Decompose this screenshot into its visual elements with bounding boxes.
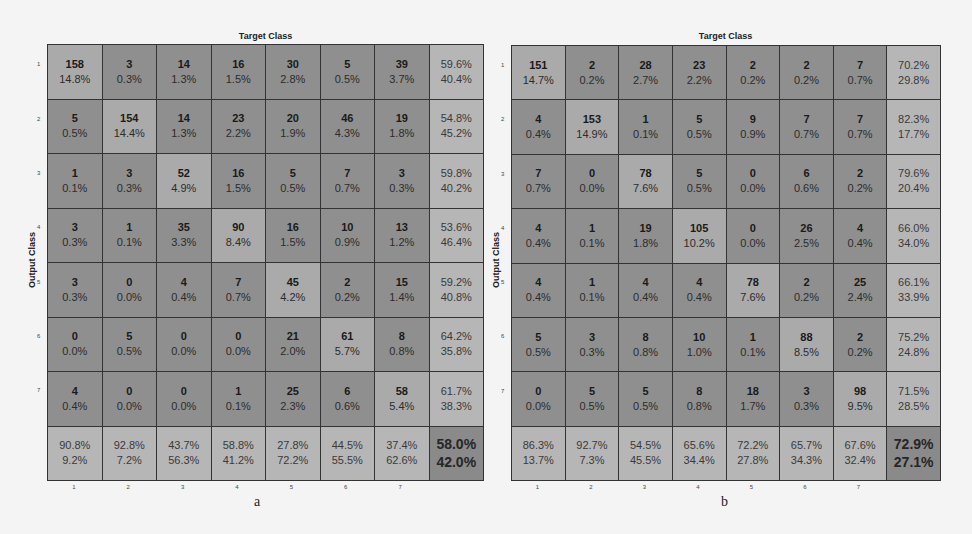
matrix-cell: 262.5% xyxy=(780,209,833,262)
cell-percent: 24.8% xyxy=(898,345,929,360)
matrix-cell: 10.1% xyxy=(566,264,619,317)
cell-count: 5 xyxy=(589,384,595,399)
y-tick-label: 4 xyxy=(501,225,504,231)
cell-percent: 7.6% xyxy=(740,290,765,305)
cell-percent: 45.5% xyxy=(630,453,661,468)
y-tick-label: 6 xyxy=(501,333,504,339)
matrix-cell: 40.4% xyxy=(673,264,726,317)
cell-percent: 65.7% xyxy=(791,438,822,453)
y-tick-label: 2 xyxy=(501,116,504,122)
cell-percent: 0.1% xyxy=(740,345,765,360)
cell-percent: 0.4% xyxy=(633,290,658,305)
cell-count: 2 xyxy=(857,330,863,345)
cell-percent: 0.2% xyxy=(740,73,765,88)
cell-percent: 66.0% xyxy=(898,221,929,236)
row-summary-cell: 82.3%17.7% xyxy=(887,100,940,153)
cell-percent: 33.9% xyxy=(898,290,929,305)
cell-count: 6 xyxy=(803,166,809,181)
cell-percent: 0.5% xyxy=(526,345,551,360)
cell-percent: 17.7% xyxy=(898,127,929,142)
matrix-cell: 232.2% xyxy=(673,46,726,99)
cell-count: 8 xyxy=(696,384,702,399)
matrix-cell: 60.6% xyxy=(780,155,833,208)
cell-percent: 2.2% xyxy=(687,73,712,88)
matrix-cell: 10.1% xyxy=(566,209,619,262)
cell-count: 19 xyxy=(639,221,651,236)
cell-percent: 14.7% xyxy=(523,73,554,88)
matrix-cell: 30.3% xyxy=(566,318,619,371)
x-tick-label: 5 xyxy=(750,484,753,490)
matrix-cell: 20.2% xyxy=(780,46,833,99)
cell-percent: 1.7% xyxy=(740,399,765,414)
cell-percent: 0.1% xyxy=(579,290,604,305)
x-tick-label: 1 xyxy=(536,484,539,490)
matrix-cell: 40.4% xyxy=(512,100,565,153)
cell-count: 2 xyxy=(857,166,863,181)
cell-percent: 27.1% xyxy=(894,453,934,471)
matrix-cell: 50.5% xyxy=(673,155,726,208)
cell-count: 5 xyxy=(696,166,702,181)
cell-count: 153 xyxy=(583,112,601,127)
cell-count: 10 xyxy=(693,330,705,345)
cell-percent: 20.4% xyxy=(898,181,929,196)
cell-count: 25 xyxy=(854,275,866,290)
cell-percent: 0.6% xyxy=(794,181,819,196)
cell-percent: 28.5% xyxy=(898,399,929,414)
cell-percent: 82.3% xyxy=(898,112,929,127)
cell-percent: 65.6% xyxy=(684,438,715,453)
x-tick-label: 7 xyxy=(857,484,860,490)
matrix-cell: 989.5% xyxy=(834,372,887,425)
row-summary-cell: 75.2%24.8% xyxy=(887,318,940,371)
confusion-matrix-b: Target Class Output Class 15114.7%20.2%2… xyxy=(0,0,972,534)
cell-count: 1 xyxy=(589,275,595,290)
y-tick-label: 1 xyxy=(501,62,504,68)
x-tick-label: 6 xyxy=(803,484,806,490)
cell-percent: 71.5% xyxy=(898,384,929,399)
matrix-cell: 90.9% xyxy=(727,100,780,153)
matrix-cell: 252.4% xyxy=(834,264,887,317)
cell-count: 2 xyxy=(803,58,809,73)
cell-count: 4 xyxy=(857,221,863,236)
cell-count: 151 xyxy=(529,58,547,73)
cell-count: 98 xyxy=(854,384,866,399)
cell-percent: 2.4% xyxy=(848,290,873,305)
cell-count: 7 xyxy=(535,166,541,181)
cell-percent: 0.9% xyxy=(740,127,765,142)
cell-percent: 0.8% xyxy=(687,399,712,414)
y-axis-title: Output Class xyxy=(491,230,501,290)
cell-percent: 13.7% xyxy=(523,453,554,468)
matrix-cell: 50.5% xyxy=(566,372,619,425)
cell-percent: 0.5% xyxy=(687,181,712,196)
cell-count: 4 xyxy=(535,275,541,290)
matrix-cell: 80.8% xyxy=(673,372,726,425)
column-summary-cell: 54.5%45.5% xyxy=(619,427,672,480)
column-summary-cell: 65.6%34.4% xyxy=(673,427,726,480)
matrix-cell: 80.8% xyxy=(619,318,672,371)
cell-count: 26 xyxy=(800,221,812,236)
cell-percent: 0.7% xyxy=(848,127,873,142)
cell-percent: 72.9% xyxy=(894,435,934,453)
row-summary-cell: 71.5%28.5% xyxy=(887,372,940,425)
cell-percent: 7.3% xyxy=(579,453,604,468)
cell-percent: 92.7% xyxy=(576,438,607,453)
cell-percent: 0.1% xyxy=(579,236,604,251)
cell-percent: 0.0% xyxy=(740,236,765,251)
x-tick-label: 2 xyxy=(589,484,592,490)
cell-percent: 66.1% xyxy=(898,275,929,290)
cell-percent: 86.3% xyxy=(523,438,554,453)
column-summary-cell: 92.7%7.3% xyxy=(566,427,619,480)
matrix-cell: 10510.2% xyxy=(673,209,726,262)
matrix-cell: 50.5% xyxy=(512,318,565,371)
cell-count: 3 xyxy=(803,384,809,399)
matrix-cell: 00.0% xyxy=(727,209,780,262)
cell-percent: 27.8% xyxy=(737,453,768,468)
matrix-cell: 15314.9% xyxy=(566,100,619,153)
matrix-cell: 70.7% xyxy=(834,46,887,99)
cell-percent: 0.5% xyxy=(633,399,658,414)
matrix-cell: 181.7% xyxy=(727,372,780,425)
cell-count: 78 xyxy=(639,166,651,181)
cell-percent: 79.6% xyxy=(898,166,929,181)
cell-count: 23 xyxy=(693,58,705,73)
row-summary-cell: 66.1%33.9% xyxy=(887,264,940,317)
cell-percent: 34.3% xyxy=(791,453,822,468)
